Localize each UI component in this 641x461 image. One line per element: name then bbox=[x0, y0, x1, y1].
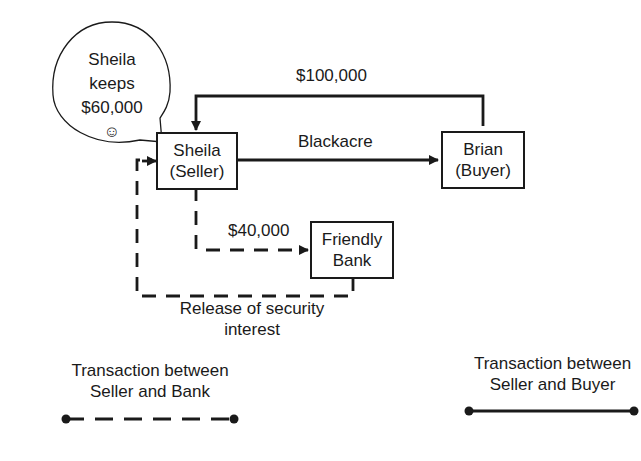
legend-bank-line-1: Transaction between bbox=[55, 360, 245, 381]
smiley-icon: ☺ bbox=[52, 120, 172, 144]
loan-payoff-arrow bbox=[196, 187, 308, 252]
payment-label: $100,000 bbox=[296, 66, 367, 86]
bank-name-line1: Friendly bbox=[322, 229, 382, 250]
legend-bank-line-2: Seller and Bank bbox=[55, 381, 245, 402]
legend-bank-line bbox=[62, 415, 239, 424]
node-seller: Sheila (Seller) bbox=[156, 132, 238, 190]
property-label: Blackacre bbox=[298, 132, 373, 152]
loan-payoff-label: $40,000 bbox=[228, 221, 289, 241]
node-bank: Friendly Bank bbox=[310, 221, 394, 279]
legend-buyer-line-2: Seller and Buyer bbox=[460, 374, 641, 395]
legend-buyer-line bbox=[465, 407, 639, 416]
legend-buyer-label: Transaction between Seller and Buyer bbox=[460, 353, 641, 395]
release-label-line-2: interest bbox=[167, 319, 337, 340]
payment-arrow bbox=[196, 96, 483, 130]
legend-bank-label: Transaction between Seller and Bank bbox=[55, 360, 245, 402]
seller-role: (Seller) bbox=[170, 161, 225, 182]
bubble-line-1: Sheila bbox=[52, 48, 172, 72]
buyer-name: Brian bbox=[463, 139, 503, 160]
release-label-line-1: Release of security bbox=[167, 298, 337, 319]
node-buyer: Brian (Buyer) bbox=[441, 131, 525, 189]
release-label: Release of security interest bbox=[167, 298, 337, 340]
legend-buyer-line-1: Transaction between bbox=[460, 353, 641, 374]
speech-bubble: Sheila keeps $60,000 ☺ bbox=[52, 48, 172, 144]
bank-name-line2: Bank bbox=[333, 250, 372, 271]
bubble-line-3: $60,000 bbox=[52, 96, 172, 120]
seller-name: Sheila bbox=[173, 140, 220, 161]
buyer-role: (Buyer) bbox=[455, 160, 511, 181]
bubble-line-2: keeps bbox=[52, 72, 172, 96]
